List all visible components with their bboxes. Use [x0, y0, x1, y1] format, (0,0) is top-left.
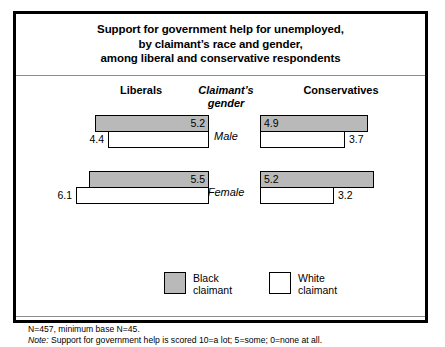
- value-conservatives-male-black: 4.9: [264, 115, 279, 132]
- legend-item-white-claimant: White claimant: [269, 272, 337, 296]
- value-conservatives-female-white: 3.2: [338, 187, 353, 204]
- value-conservatives-male-white: 3.7: [349, 131, 364, 148]
- column-header-liberals: Liberals: [76, 84, 206, 96]
- legend-label-black-claimant: Black claimant: [193, 272, 232, 296]
- title-line-1: Support for government help for unemploy…: [26, 22, 415, 37]
- chart-figure: Support for government help for unemploy…: [13, 11, 428, 323]
- footnote-note-text: Support for government help is scored 10…: [49, 335, 323, 345]
- legend-item-black-claimant: Black claimant: [164, 272, 232, 296]
- column-header-gender-line-1: Claimant’s: [191, 84, 261, 97]
- title-line-3: among liberal and conservative responden…: [26, 51, 415, 66]
- column-header-conservatives: Conservatives: [276, 84, 406, 96]
- value-liberals-female-white: 6.1: [57, 187, 72, 204]
- bar-liberals-male-white: [108, 131, 209, 148]
- chart-footnote: N=457, minimum base N=45. Note: Support …: [16, 316, 425, 347]
- legend-label-white-line-1: White: [298, 272, 325, 284]
- legend-swatch-black-claimant: [164, 272, 186, 294]
- bar-liberals-female-white: [76, 187, 209, 204]
- legend-label-white-line-2: claimant: [298, 284, 337, 296]
- legend-swatch-white-claimant: [269, 272, 291, 294]
- bar-conservatives-female-white: [260, 187, 334, 204]
- footnote-note: Note: Support for government help is sco…: [28, 335, 415, 347]
- column-headers: Liberals Claimant’s gender Conservatives: [16, 76, 425, 112]
- value-conservatives-female-black: 5.2: [264, 171, 279, 188]
- chart-row-female: 5.5 6.1 Female 5.2 3.2: [16, 168, 425, 224]
- chart-title: Support for government help for unemploy…: [16, 14, 425, 76]
- chart-row-male: 5.2 4.4 Male 4.9 3.7: [16, 112, 425, 168]
- title-line-2: by claimant’s race and gender,: [26, 37, 415, 52]
- footnote-note-label: Note:: [28, 335, 49, 345]
- footnote-sample-size: N=457, minimum base N=45.: [28, 324, 415, 336]
- column-header-gender-line-2: gender: [191, 97, 261, 110]
- column-header-claimant-gender: Claimant’s gender: [191, 84, 261, 110]
- legend-label-white-claimant: White claimant: [298, 272, 337, 296]
- bar-conservatives-male-white: [260, 131, 345, 148]
- plot-area: Liberals Claimant’s gender Conservatives…: [16, 76, 425, 270]
- legend-label-black-line-1: Black: [193, 272, 219, 284]
- value-liberals-male-white: 4.4: [89, 131, 104, 148]
- legend-label-black-line-2: claimant: [193, 284, 232, 296]
- chart-legend: Black claimant White claimant: [16, 270, 425, 316]
